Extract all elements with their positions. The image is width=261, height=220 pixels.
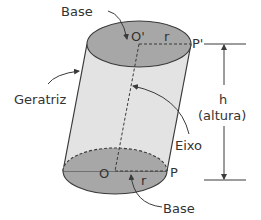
height-desc-label: (altura)	[198, 108, 246, 123]
center-top-label: O'	[131, 29, 145, 44]
point-bottom-label: P	[170, 165, 178, 180]
radius-top-label: r	[164, 29, 170, 44]
center-bottom-label: O	[99, 166, 109, 181]
oblique-cylinder-diagram: Base Geratriz Eixo Base h (altura) O' O …	[0, 0, 261, 220]
generatrix-pointer	[48, 71, 79, 84]
generatrix-label: Geratriz	[14, 92, 66, 107]
height-label: h	[219, 92, 227, 107]
base-top-label: Base	[61, 4, 93, 19]
bottom-base-front	[63, 171, 167, 194]
axis-label: Eixo	[175, 138, 202, 153]
point-top-label: P'	[192, 36, 203, 51]
base-bottom-label: Base	[163, 201, 195, 216]
radius-bottom-label: r	[141, 173, 147, 188]
